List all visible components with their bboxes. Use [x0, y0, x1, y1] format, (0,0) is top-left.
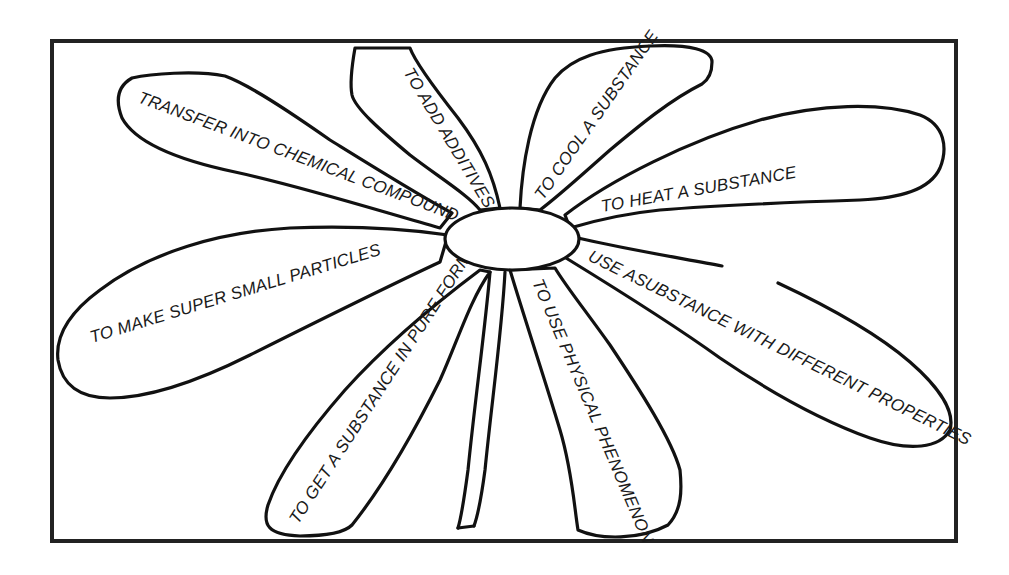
- petal-physical: TO USE PHYSICAL PHENOMENON: [510, 268, 681, 547]
- flower-center: [445, 208, 579, 270]
- flower-diagram: TRANSFER INTO CHEMICAL COMPOUND TO ADD A…: [0, 0, 1009, 575]
